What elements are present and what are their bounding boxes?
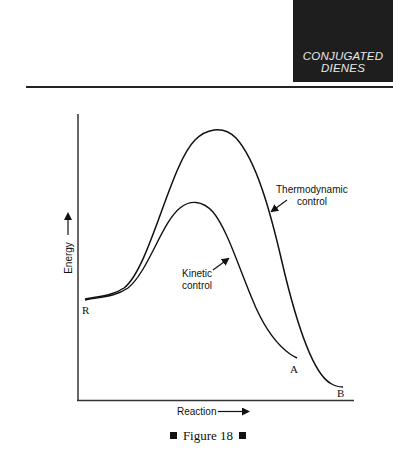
- energy-label-text: Energy: [63, 242, 74, 274]
- thermodynamic-label-line1: Thermodynamic: [276, 184, 348, 195]
- caption-square-icon-right: [239, 432, 246, 439]
- reaction-label-text: Reaction: [177, 406, 216, 417]
- figure-caption: Figure 18: [0, 428, 416, 444]
- thermodynamic-pointer-arrow-icon: [272, 200, 287, 211]
- caption-square-icon-left: [170, 432, 177, 439]
- label-b: B: [337, 387, 344, 399]
- energy-diagram: Energy Reaction R A B Thermodynamic cont…: [0, 0, 416, 457]
- label-a: A: [290, 363, 298, 375]
- kinetic-label-line2: control: [182, 280, 212, 291]
- thermodynamic-curve: [85, 130, 343, 387]
- label-r: R: [82, 304, 90, 316]
- kinetic-label-line1: Kinetic: [182, 268, 212, 279]
- figure-caption-text: Figure 18: [183, 428, 233, 443]
- energy-axis-label: Energy: [63, 242, 74, 274]
- thermodynamic-label-line2: control: [297, 196, 327, 207]
- kinetic-pointer-arrow-icon: [213, 259, 228, 270]
